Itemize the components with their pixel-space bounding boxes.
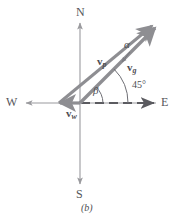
vector-label-v-plane: vp — [97, 56, 107, 69]
compass-label-east: E — [161, 96, 168, 108]
compass-label-west: W — [6, 96, 17, 108]
vector-label-v-wind: vw — [66, 108, 77, 121]
vector-label-v-plane-subscript: p — [103, 60, 107, 69]
angle-label-beta: β — [93, 85, 98, 96]
vector-label-v-wind-subscript: w — [72, 112, 77, 121]
vector-diagram-canvas — [0, 0, 175, 217]
angle-label-45-degrees: 45° — [132, 80, 146, 90]
vector-label-v-ground-subscript: g — [133, 66, 137, 75]
angle-label-alpha: α — [124, 39, 130, 50]
vector-label-v-ground: vg — [127, 62, 137, 75]
angle-arc-45 — [114, 69, 128, 103]
figure-caption: (b) — [81, 203, 93, 213]
vector-diagram-figure: N S E W vp vg vw α β 45° (b) — [0, 0, 175, 217]
vector-v-ground — [80, 28, 155, 103]
compass-label-south: S — [76, 188, 83, 200]
compass-label-north: N — [76, 6, 85, 18]
